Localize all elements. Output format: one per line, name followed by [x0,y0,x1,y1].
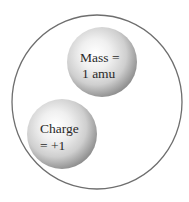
charge-label-line-1: Charge [40,121,79,136]
mass-label-line-2: 1 amu [82,66,116,81]
proton-diagram: Mass = 1 amu Charge = +1 [0,0,189,202]
charge-label-line-2: = +1 [40,138,65,153]
mass-sphere: Mass = 1 amu [67,27,137,97]
mass-label-line-1: Mass = [80,50,120,65]
charge-sphere: Charge = +1 [27,99,97,169]
